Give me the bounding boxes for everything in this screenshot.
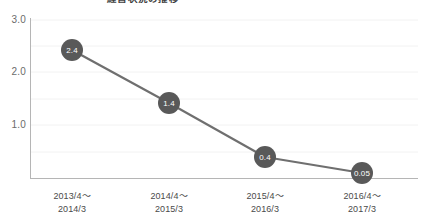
x-tick-label-4-line2: 2017/3 <box>316 203 408 216</box>
data-point-marker <box>351 162 373 184</box>
x-tick-label-2: 2014/4〜 2015/3 <box>123 190 215 215</box>
x-tick-label-3-line1: 2015/4〜 <box>219 190 311 203</box>
gridlines <box>30 20 418 152</box>
x-tick-label-2-line2: 2015/3 <box>123 203 215 216</box>
y-tick-label-3: 3.0 <box>2 14 26 25</box>
data-series-line <box>72 50 362 173</box>
x-tick-label-1-line1: 2013/4〜 <box>26 190 118 203</box>
data-point-marker <box>61 39 83 61</box>
data-point-marker <box>254 146 276 168</box>
line-chart: 経営状況の推移 3.0 2.0 1.0 2.4 1.4 0.4 0.05 201… <box>0 0 424 223</box>
x-tick-label-3-line2: 2016/3 <box>219 203 311 216</box>
data-point-marker <box>158 92 180 114</box>
x-tick-label-3: 2015/4〜 2016/3 <box>219 190 311 215</box>
y-tick-label-1: 1.0 <box>2 119 26 130</box>
x-tick-label-1: 2013/4〜 2014/3 <box>26 190 118 215</box>
x-tick-label-2-line1: 2014/4〜 <box>123 190 215 203</box>
x-tick-label-4-line1: 2016/4〜 <box>316 190 408 203</box>
y-tick-label-2: 2.0 <box>2 66 26 77</box>
x-tick-label-1-line2: 2014/3 <box>26 203 118 216</box>
x-tick-label-4: 2016/4〜 2017/3 <box>316 190 408 215</box>
